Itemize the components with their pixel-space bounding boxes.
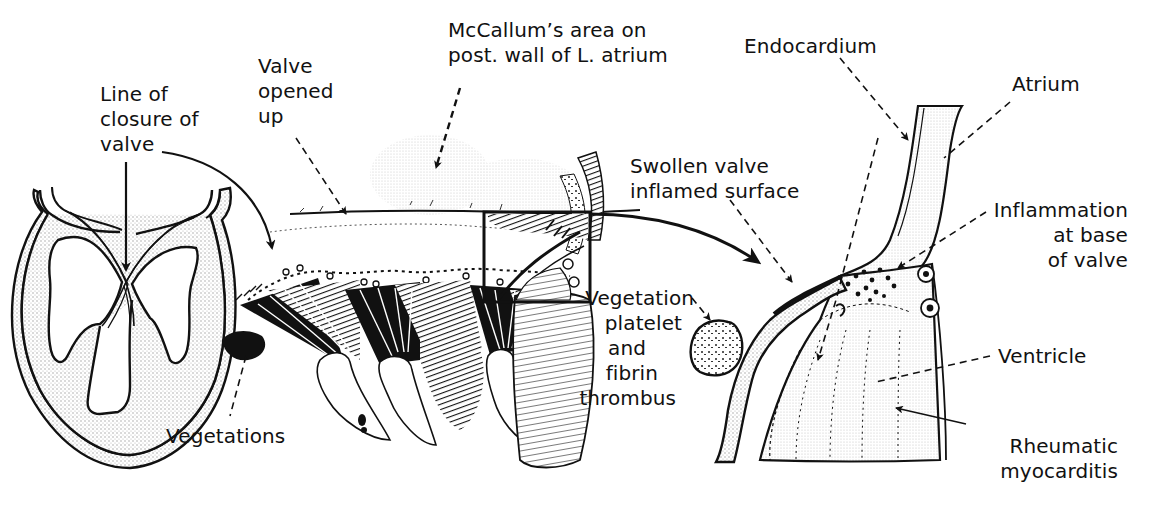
label-line: of valve (970, 248, 1128, 273)
label-rheumatic-myocarditis: Rheumatic myocarditis (970, 434, 1118, 484)
label-line: McCallum’s area on (448, 18, 668, 43)
label-mccallum-area: McCallum’s area on post. wall of L. atri… (448, 18, 668, 68)
label-inflammation: Inflammation at base of valve (970, 198, 1128, 273)
label-vegetations: Vegetations (166, 424, 285, 449)
label-line: at base (970, 223, 1128, 248)
label-line: platelet (568, 311, 682, 336)
label-ventricle: Ventricle (998, 344, 1087, 369)
heart-section-drawing (12, 162, 235, 468)
label-line: Valve (258, 54, 334, 79)
label-line: inflamed surface (630, 179, 799, 204)
label-line: Inflammation (970, 198, 1128, 223)
diagram-canvas: Line of closure of valve Valve opened up… (0, 0, 1152, 513)
label-atrium: Atrium (1012, 72, 1080, 97)
label-line: thrombus (568, 386, 676, 411)
label-vegetation-thrombus: Vegetation platelet and fibrin thrombus (568, 286, 694, 411)
label-line: post. wall of L. atrium (448, 43, 668, 68)
label-endocardium: Endocardium (744, 34, 877, 59)
label-line: Line of (100, 82, 199, 107)
label-line: closure of (100, 107, 199, 132)
label-line: up (258, 104, 334, 129)
label-line: Vegetation (568, 286, 694, 311)
label-valve-opened-up: Valve opened up (258, 54, 334, 129)
label-swollen-valve: Swollen valve inflamed surface (630, 154, 799, 204)
label-line: opened (258, 79, 334, 104)
detail-to-magnified-arrow (590, 214, 758, 262)
label-line: valve (100, 132, 199, 157)
label-line: myocarditis (970, 459, 1118, 484)
label-line: Swollen valve (630, 154, 799, 179)
label-line: and (568, 336, 646, 361)
label-line-of-closure: Line of closure of valve (100, 82, 199, 157)
label-line: fibrin (568, 361, 658, 386)
label-line: Rheumatic (970, 434, 1118, 459)
